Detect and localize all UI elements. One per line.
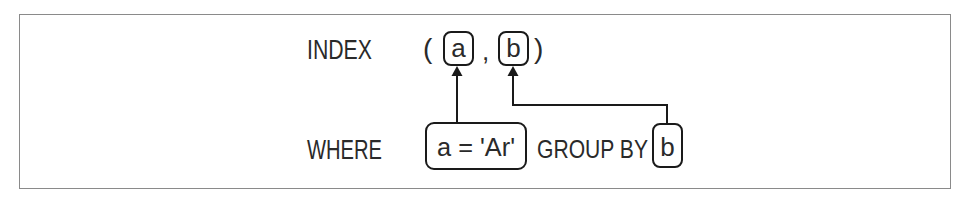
where-predicate-label: a = 'Ar' [437, 133, 515, 161]
index-column-a-box: a [444, 32, 473, 65]
arrow-groupby-to-b [508, 66, 668, 124]
group-by-keyword: GROUP BY [537, 134, 648, 164]
column-separator: , [482, 36, 489, 66]
index-column-a-label: a [451, 33, 466, 63]
index-usage-diagram: INDEX ( a , b ) WHERE a = 'Ar' GROUP BY … [0, 0, 968, 201]
arrowhead-icon [452, 66, 463, 76]
close-paren: ) [534, 33, 543, 64]
index-column-b-label: b [506, 33, 520, 63]
group-by-column-label: b [660, 132, 674, 162]
arrowhead-icon [508, 66, 519, 76]
open-paren: ( [423, 33, 433, 64]
arrow-where-to-a [452, 66, 463, 123]
index-column-b-box: b [499, 32, 528, 65]
where-predicate-box: a = 'Ar' [426, 123, 526, 169]
where-keyword: WHERE [307, 135, 382, 165]
index-keyword: INDEX [307, 35, 372, 65]
group-by-column-box: b [653, 124, 682, 167]
